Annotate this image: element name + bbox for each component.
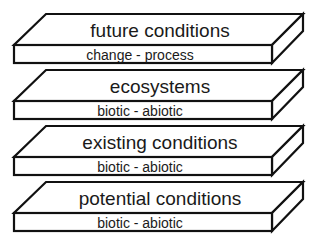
layer-subtitle: biotic - abiotic xyxy=(97,159,183,175)
layer-subtitle: biotic - abiotic xyxy=(97,103,183,119)
layer-title: future conditions xyxy=(90,20,229,41)
layer-title: ecosystems xyxy=(110,76,210,97)
layer-subtitle: change - process xyxy=(86,47,193,63)
layer-slab: potential conditionsbiotic - abiotic xyxy=(14,182,303,231)
layer-slab: ecosystemsbiotic - abiotic xyxy=(14,70,303,119)
layer-stack-diagram: future conditionschange - processecosyst… xyxy=(0,0,315,244)
layer-slab: existing conditionsbiotic - abiotic xyxy=(14,126,303,175)
layer-title: existing conditions xyxy=(82,132,237,153)
layer-slab: future conditionschange - process xyxy=(14,14,303,63)
layer-title: potential conditions xyxy=(79,188,242,209)
layer-subtitle: biotic - abiotic xyxy=(97,215,183,231)
